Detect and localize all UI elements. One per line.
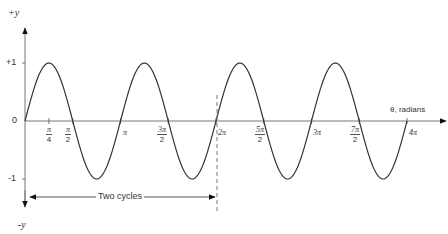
x-tick-label-5pi-over-2: 5π 2 — [255, 126, 265, 144]
x-tick-label-3pi-over-2: 3π 2 — [157, 126, 167, 144]
y-axis-positive-label: +y — [8, 8, 19, 18]
diagram-canvas — [0, 0, 448, 234]
x-tick-label-pi-over-2: π 2 — [65, 126, 71, 144]
y-tick-label-zero: 0 — [12, 116, 17, 125]
x-tick-label-7pi-over-2: 7π 2 — [350, 126, 360, 144]
y-tick-label-plus-one: +1 — [6, 58, 16, 67]
x-tick-label-4pi: 4π — [409, 129, 417, 137]
x-tick-label-3pi: 3π — [313, 129, 321, 137]
x-axis-label: θ, radians — [390, 106, 425, 114]
two-cycles-label: Two cycles — [96, 192, 144, 201]
x-tick-label-2pi: 2π — [218, 129, 226, 137]
x-tick-label-pi-over-4: π 4 — [46, 126, 52, 144]
y-tick-label-minus-one: -1 — [8, 174, 16, 183]
x-tick-label-pi: π — [123, 129, 127, 137]
y-axis-negative-label: -y — [18, 220, 26, 230]
sine-wave-diagram: +y -y +1 0 -1 θ, radians π 4 π 2 π 3π 2 … — [0, 0, 448, 234]
